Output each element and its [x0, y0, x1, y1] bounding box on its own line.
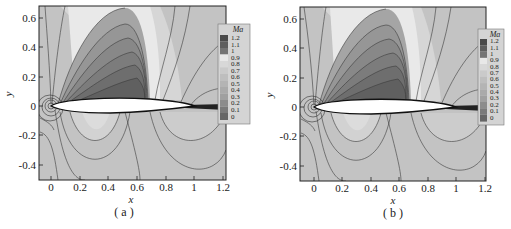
svg-text:0: 0 [490, 114, 494, 122]
svg-text:0.6: 0.6 [22, 12, 36, 24]
svg-text:-0.2: -0.2 [19, 129, 36, 141]
caption-b: ( b ) [373, 206, 413, 221]
svg-text:0: 0 [292, 101, 298, 113]
svg-text:0: 0 [31, 100, 37, 112]
svg-text:1: 1 [191, 181, 197, 193]
svg-text:0.8: 0.8 [421, 182, 435, 194]
legend-b: Ma 1.2 1.1 1 0.9 0.8 0.7 0.6 0.5 0.4 0.3… [478, 29, 504, 125]
x-tick-labels-a: 0 0.2 0.4 0.6 0.8 1 1.2 [48, 181, 230, 193]
svg-text:0.2: 0.2 [73, 181, 87, 193]
x-axis-title-b: x [390, 194, 396, 206]
svg-text:0.4: 0.4 [22, 41, 36, 53]
svg-text:1.2: 1.2 [216, 181, 230, 193]
contour-plot-a: 0.6 0.4 0.2 0 -0.2 -0.4 0 0.2 0.4 0.6 0.… [0, 0, 255, 229]
contour-field-a [37, 6, 226, 180]
svg-text:-0.4: -0.4 [19, 159, 37, 171]
legend-a: Ma 1.2 1.1 1 0.9 0.8 0.7 0.6 0.5 0.4 0.3… [218, 24, 250, 124]
svg-text:1.2: 1.2 [478, 182, 492, 194]
y-axis-title-a: y [2, 91, 14, 97]
svg-text:0.6: 0.6 [392, 182, 406, 194]
contour-field-b [299, 7, 486, 181]
svg-text:0.6: 0.6 [283, 13, 297, 25]
svg-text:0: 0 [48, 181, 54, 193]
caption-a: ( a ) [104, 205, 144, 220]
svg-text:0.2: 0.2 [283, 72, 297, 84]
svg-text:-0.4: -0.4 [280, 160, 298, 172]
svg-text:0.4: 0.4 [283, 42, 297, 54]
svg-text:0.4: 0.4 [364, 182, 378, 194]
y-tick-labels-b: 0.6 0.4 0.2 0 -0.2 -0.4 [280, 13, 298, 172]
y-tick-labels-a: 0.6 0.4 0.2 0 -0.2 -0.4 [19, 12, 37, 171]
svg-text:0.2: 0.2 [335, 182, 349, 194]
x-axis-title-a: x [128, 193, 134, 205]
y-axis-title-b: y [263, 92, 275, 98]
svg-text:0.8: 0.8 [159, 181, 173, 193]
panel-a: 0.6 0.4 0.2 0 -0.2 -0.4 0 0.2 0.4 0.6 0.… [0, 0, 255, 229]
svg-text:0.6: 0.6 [130, 181, 144, 193]
svg-text:0.2: 0.2 [22, 71, 36, 83]
svg-text:Ma: Ma [232, 25, 244, 34]
svg-text:1: 1 [453, 182, 459, 194]
contour-plot-b: 0.6 0.4 0.2 0 -0.2 -0.4 0 0.2 0.4 0.6 0.… [256, 0, 511, 229]
svg-text:0: 0 [311, 182, 317, 194]
panel-b: 0.6 0.4 0.2 0 -0.2 -0.4 0 0.2 0.4 0.6 0.… [256, 0, 511, 229]
svg-text:-0.2: -0.2 [280, 130, 297, 142]
svg-text:0.4: 0.4 [101, 181, 115, 193]
svg-text:0: 0 [231, 113, 235, 121]
x-tick-labels-b: 0 0.2 0.4 0.6 0.8 1 1.2 [311, 182, 492, 194]
